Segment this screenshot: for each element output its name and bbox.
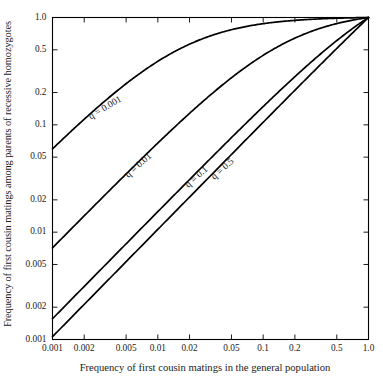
plot-frame — [53, 18, 369, 340]
y-axis-tick-label: 1.0 — [0, 13, 47, 22]
axes-ticks — [53, 18, 369, 340]
x-axis-tick-label: 1.0 — [349, 344, 383, 353]
x-axis-tick-label: 0.2 — [275, 344, 315, 353]
plot-canvas — [0, 0, 383, 389]
curve-3 — [53, 18, 369, 319]
y-axis-tick-label: 0.02 — [0, 195, 47, 204]
figure-log-log-plot: Frequency of first cousin matings among … — [0, 0, 383, 389]
curve-4 — [53, 18, 369, 337]
data-curves — [53, 18, 369, 337]
y-axis-tick-label: 0.01 — [0, 227, 47, 236]
x-axis-tick-label: 0.02 — [170, 344, 210, 353]
y-axis-tick-label: 0.005 — [0, 260, 47, 269]
x-axis-title: Frequency of first cousin matings in the… — [40, 362, 370, 373]
y-axis-tick-label: 0.002 — [0, 302, 47, 311]
y-axis-tick-label: 0.5 — [0, 45, 47, 54]
axes-frame — [53, 18, 369, 340]
y-axis-tick-label: 0.001 — [0, 335, 47, 344]
y-axis-tick-label: 0.05 — [0, 152, 47, 161]
x-axis-tick-label: 0.002 — [64, 344, 104, 353]
curve-1 — [53, 18, 369, 149]
curve-2 — [53, 18, 369, 248]
y-axis-tick-label: 0.1 — [0, 120, 47, 129]
y-axis-tick-label: 0.2 — [0, 88, 47, 97]
